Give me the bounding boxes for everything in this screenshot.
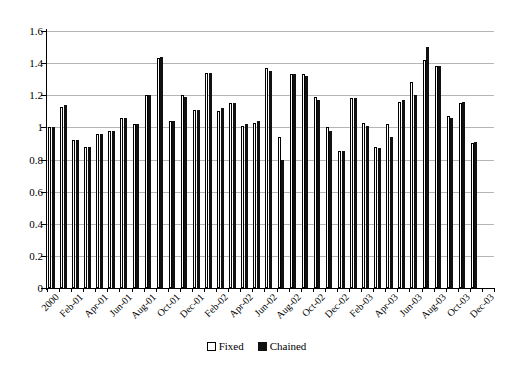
x-axis-tick — [59, 288, 60, 292]
x-axis-tick — [264, 288, 265, 292]
x-axis-tick — [204, 288, 205, 292]
bar-chained — [450, 118, 453, 288]
bar-group — [48, 31, 60, 288]
x-axis-tick — [289, 288, 290, 292]
x-axis-tick — [361, 288, 362, 292]
bar-chained — [414, 95, 417, 288]
bar-group — [108, 31, 120, 288]
bar-chained — [88, 147, 91, 288]
y-axis-tick — [41, 127, 46, 128]
x-axis-tick — [313, 288, 314, 292]
bar-fixed — [217, 111, 220, 288]
x-axis-tick — [156, 288, 157, 292]
bar-group — [96, 31, 108, 288]
bar-chained — [293, 74, 296, 288]
bar-chained — [342, 151, 345, 288]
bar-chained — [378, 148, 381, 288]
bar-chained — [76, 140, 79, 288]
x-axis-tick — [349, 288, 350, 292]
bar-fixed — [290, 74, 293, 288]
legend-label: Fixed — [219, 340, 244, 352]
bar-group — [217, 31, 229, 288]
y-axis-tick — [41, 63, 46, 64]
plot-area — [47, 31, 494, 288]
bar-chained — [474, 142, 477, 288]
x-axis-tick — [144, 288, 145, 292]
bar-chained — [305, 76, 308, 288]
bar-chained — [172, 121, 175, 288]
x-axis-tick — [228, 288, 229, 292]
bar-group — [265, 31, 277, 288]
legend-swatch-chained — [258, 342, 267, 351]
x-axis-tick — [252, 288, 253, 292]
bar-chained — [402, 100, 405, 288]
bar-group — [133, 31, 145, 288]
bar-fixed — [447, 116, 450, 288]
x-axis-tick-label: Dec-02 — [323, 292, 351, 320]
y-axis-tick — [41, 31, 46, 32]
bar-fixed — [120, 118, 123, 288]
bar-fixed — [193, 110, 196, 288]
bar-group — [326, 31, 338, 288]
bar-group — [447, 31, 459, 288]
bar-fixed — [84, 147, 87, 288]
bar-fixed — [278, 137, 281, 288]
bar-group — [374, 31, 386, 288]
x-axis-tick-label: Aug-03 — [419, 292, 448, 321]
x-axis-tick — [216, 288, 217, 292]
bar-chained — [197, 110, 200, 288]
bar-chained — [221, 108, 224, 288]
x-axis-tick — [71, 288, 72, 292]
bar-fixed — [145, 95, 148, 288]
x-axis-labels: 2000Feb-01Apr-01Jun-01Aug-01Oct-01Dec-01… — [0, 288, 513, 348]
y-axis-tick — [41, 256, 46, 257]
bar-group — [410, 31, 422, 288]
bar-chained — [269, 71, 272, 288]
x-axis-tick — [385, 288, 386, 292]
y-axis-tick — [41, 192, 46, 193]
bar-chained — [52, 127, 55, 288]
bar-group — [157, 31, 169, 288]
bar-group — [459, 31, 471, 288]
legend-label: Chained — [270, 340, 307, 352]
bar-fixed — [326, 127, 329, 288]
bar-group — [483, 31, 495, 288]
legend-item: Fixed — [207, 340, 244, 352]
x-axis-tick — [458, 288, 459, 292]
y-axis-tick — [41, 95, 46, 96]
bar-fixed — [253, 123, 256, 288]
chart-title-truncated — [0, 0, 513, 3]
bar-group — [302, 31, 314, 288]
x-axis-tick-label: Aug-02 — [274, 292, 303, 321]
bar-chained — [136, 124, 139, 288]
bar-group — [253, 31, 265, 288]
x-axis-tick-label: Dec-03 — [468, 292, 496, 320]
x-axis-tick-label: Feb-03 — [348, 292, 375, 319]
bar-fixed — [157, 58, 160, 288]
bar-chained — [438, 66, 441, 288]
x-axis-tick — [422, 288, 423, 292]
x-axis-tick-label: Oct-03 — [445, 292, 472, 319]
bar-group — [362, 31, 374, 288]
bar-fixed — [169, 121, 172, 288]
bar-chained — [257, 121, 260, 288]
x-axis-tick-label: Oct-02 — [300, 292, 327, 319]
bar-fixed — [241, 126, 244, 288]
bar-group — [205, 31, 217, 288]
bar-fixed — [459, 103, 462, 288]
y-axis-tick — [41, 224, 46, 225]
bar-group — [145, 31, 157, 288]
bar-group — [398, 31, 410, 288]
bar-group — [241, 31, 253, 288]
x-axis-tick — [482, 288, 483, 292]
bar-group — [278, 31, 290, 288]
bar-group — [290, 31, 302, 288]
bar-group — [471, 31, 483, 288]
x-axis-tick — [494, 288, 495, 292]
bar-fixed — [108, 131, 111, 288]
x-axis-tick — [301, 288, 302, 292]
x-axis-tick — [325, 288, 326, 292]
x-axis-tick — [277, 288, 278, 292]
bar-fixed — [205, 73, 208, 288]
x-axis-tick-label: Apr-01 — [82, 292, 109, 319]
